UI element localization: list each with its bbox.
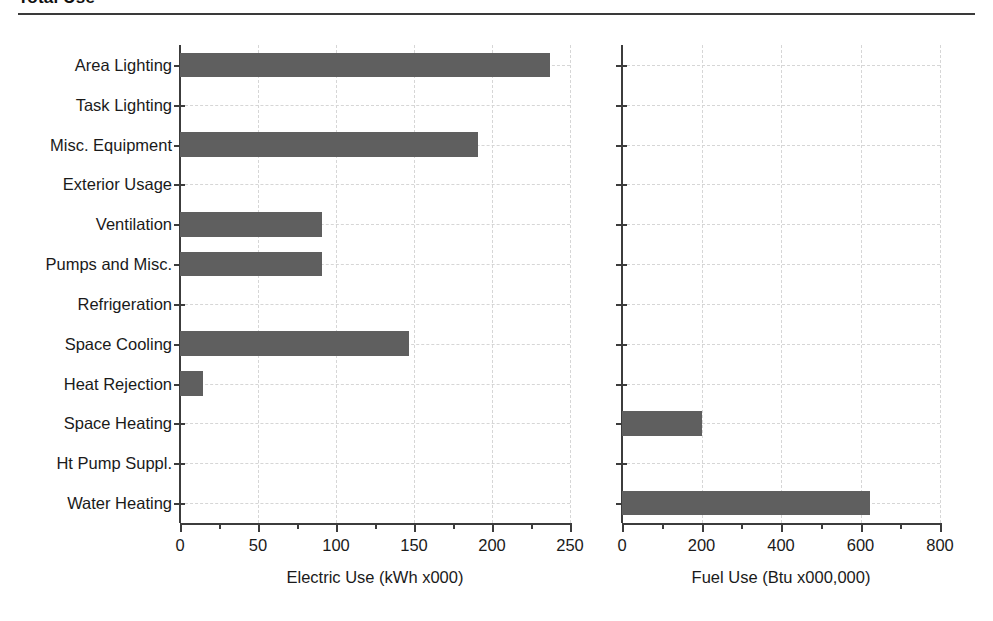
x-axis-minor-tick — [453, 523, 455, 529]
x-axis-tick-label: 100 — [322, 536, 350, 555]
x-axis-title-electric: Electric Use (kWh x000) — [287, 568, 464, 587]
x-axis-minor-tick — [741, 523, 743, 529]
x-axis-major-tick — [258, 523, 260, 532]
bar-electric — [180, 252, 322, 277]
bar-row — [180, 53, 570, 78]
x-axis-minor-tick — [821, 523, 823, 529]
bar-electric — [180, 331, 409, 356]
bar-fuel — [622, 491, 870, 516]
horizontal-gridline — [180, 463, 570, 464]
fuel-plot-area — [622, 45, 940, 523]
vertical-gridline — [336, 45, 337, 523]
y-axis-tick — [616, 224, 627, 226]
x-axis-tick-label: 200 — [688, 536, 716, 555]
x-axis-minor-tick — [219, 523, 221, 529]
x-axis-major-tick — [622, 523, 624, 532]
bar-electric — [180, 212, 322, 237]
fuel-use-panel — [622, 45, 940, 523]
x-axis-tick-label: 0 — [617, 536, 626, 555]
bar-row — [622, 411, 940, 436]
y-axis-label: Exterior Usage — [63, 175, 172, 194]
x-axis-minor-tick — [375, 523, 377, 529]
x-axis-tick-label: 0 — [175, 536, 184, 555]
horizontal-gridline — [180, 503, 570, 504]
vertical-gridline — [414, 45, 415, 523]
y-axis-tick — [174, 423, 185, 425]
vertical-gridline — [492, 45, 493, 523]
horizontal-gridline — [180, 423, 570, 424]
y-axis-tick — [174, 184, 185, 186]
vertical-gridline — [702, 45, 703, 523]
vertical-gridline — [258, 45, 259, 523]
x-axis-major-tick — [180, 523, 182, 532]
y-axis-tick — [174, 105, 185, 107]
x-axis-tick-label: 50 — [249, 536, 267, 555]
x-axis-title-fuel: Fuel Use (Btu x000,000) — [692, 568, 871, 587]
x-axis-tick-label: 150 — [400, 536, 428, 555]
bar-row — [180, 132, 570, 157]
x-axis-tick-label: 400 — [767, 536, 795, 555]
electric-plot-area — [180, 45, 570, 523]
y-axis-tick — [174, 304, 185, 306]
y-axis-tick — [174, 463, 185, 465]
vertical-gridline — [940, 45, 941, 523]
horizontal-gridline — [180, 184, 570, 185]
y-axis-tick — [616, 264, 627, 266]
y-axis-tick — [616, 344, 627, 346]
x-axis-major-tick — [861, 523, 863, 532]
x-axis-major-tick — [940, 523, 942, 532]
x-axis-tick-label: 800 — [926, 536, 954, 555]
bar-electric — [180, 53, 550, 78]
vertical-gridline — [570, 45, 571, 523]
bar-row — [180, 371, 570, 396]
bar-electric — [180, 371, 203, 396]
x-axis-major-tick — [492, 523, 494, 532]
y-axis-label: Space Cooling — [65, 334, 172, 353]
x-axis-minor-tick — [662, 523, 664, 529]
y-axis-label: Water Heating — [67, 494, 172, 513]
y-axis-tick — [616, 184, 627, 186]
chart-container: Total Use Area LightingTask LightingMisc… — [0, 0, 993, 621]
y-axis-category-labels: Area LightingTask LightingMisc. Equipmen… — [0, 45, 172, 523]
horizontal-gridline — [180, 105, 570, 106]
y-axis-label: Ht Pump Suppl. — [56, 454, 172, 473]
y-axis-tick — [616, 65, 627, 67]
bar-row — [622, 491, 940, 516]
y-axis-label: Misc. Equipment — [50, 135, 172, 154]
y-axis-tick — [616, 384, 627, 386]
vertical-gridline — [861, 45, 862, 523]
bar-row — [180, 331, 570, 356]
header-divider — [18, 13, 975, 15]
x-axis-major-tick — [414, 523, 416, 532]
y-axis-label: Area Lighting — [75, 55, 172, 74]
x-axis-major-tick — [781, 523, 783, 532]
y-axis-label: Heat Rejection — [64, 374, 172, 393]
vertical-gridline — [781, 45, 782, 523]
page-title: Total Use — [18, 0, 95, 8]
bar-row — [180, 252, 570, 277]
y-axis-label: Refrigeration — [78, 294, 172, 313]
y-axis-spine — [621, 45, 623, 523]
y-axis-tick — [174, 503, 185, 505]
y-axis-spine — [179, 45, 181, 523]
horizontal-gridline — [180, 304, 570, 305]
x-axis-tick-label: 250 — [556, 536, 584, 555]
y-axis-tick — [616, 463, 627, 465]
x-axis-minor-tick — [297, 523, 299, 529]
bar-row — [180, 212, 570, 237]
bar-fuel — [622, 411, 702, 436]
y-axis-label: Ventilation — [96, 215, 172, 234]
y-axis-label: Task Lighting — [76, 95, 172, 114]
y-axis-tick — [616, 304, 627, 306]
y-axis-tick — [616, 105, 627, 107]
y-axis-label: Space Heating — [64, 414, 172, 433]
y-axis-label: Pumps and Misc. — [45, 255, 172, 274]
electric-use-panel — [180, 45, 570, 523]
bar-electric — [180, 132, 478, 157]
y-axis-tick — [616, 145, 627, 147]
x-axis-minor-tick — [900, 523, 902, 529]
x-axis-major-tick — [336, 523, 338, 532]
x-axis-tick-label: 600 — [847, 536, 875, 555]
x-axis-major-tick — [570, 523, 572, 532]
x-axis-tick-label: 200 — [478, 536, 506, 555]
